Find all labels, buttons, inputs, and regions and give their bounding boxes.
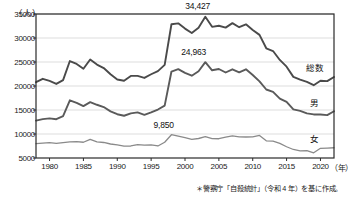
x-tick-label: 2005 (211, 162, 228, 171)
y-tick-label: 30000 (1, 34, 35, 43)
x-tick-label: 2020 (312, 162, 329, 171)
x-tick-label: 1980 (41, 162, 58, 171)
x-axis-unit-label: （年） (330, 162, 353, 173)
x-tick-label: 1995 (143, 162, 160, 171)
source-note: ＊警察庁「自殺統計」（令和 4 年）を基に作成。 (196, 183, 342, 193)
y-axis-tick-labels: 5000100001500020000250003000035000 (0, 0, 35, 198)
y-tick-label: 25000 (1, 58, 35, 67)
y-tick-label: 15000 (1, 106, 35, 115)
series-label-2: 女 (310, 132, 319, 144)
annotation-peak-female: 9,850 (153, 120, 173, 130)
annotation-peak-total: 34,427 (185, 1, 210, 11)
x-tick-label: 1985 (75, 162, 92, 171)
x-tick-label: 2015 (278, 162, 295, 171)
x-tick-label: 1990 (109, 162, 126, 171)
y-tick-label: 5000 (1, 154, 35, 163)
y-tick-label: 35000 (1, 10, 35, 19)
x-tick-label: 2010 (244, 162, 261, 171)
series-label-0: 総数 (306, 61, 324, 73)
y-tick-label: 10000 (1, 130, 35, 139)
y-tick-label: 20000 (1, 82, 35, 91)
x-tick-label: 2000 (177, 162, 194, 171)
annotation-peak-male: 24,963 (181, 47, 206, 57)
suicide-statistics-line-chart: （人） 5000100001500020000250003000035000 1… (0, 0, 361, 198)
series-label-1: 男 (310, 96, 319, 108)
